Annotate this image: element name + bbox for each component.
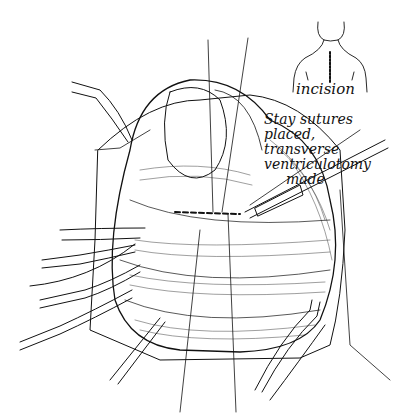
incision-label: incision (296, 82, 355, 97)
annotation-line: placed, transverse (264, 127, 384, 157)
annotation-line: ventriculotomy (264, 157, 384, 172)
surgical-illustration (0, 0, 401, 413)
stay-sutures (180, 38, 248, 412)
annotation-line: made (264, 172, 384, 187)
ventriculotomy-line (175, 212, 240, 214)
annotation-label: Stay sutures placed, transverse ventricu… (264, 112, 384, 187)
annotation-line: Stay sutures (264, 112, 384, 127)
cannulas (20, 82, 165, 384)
